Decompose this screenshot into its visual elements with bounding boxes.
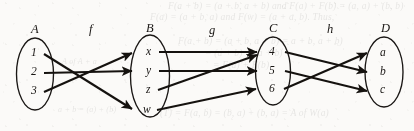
set-label-D: D	[380, 21, 390, 35]
bleed-line: a + b = (a) + (b)	[58, 105, 116, 114]
function-composition-figure: F(a + b) = (a + b, a + b) and F(a) + F(b…	[0, 0, 414, 131]
arrow-h-6-to-a	[284, 53, 367, 89]
mapping-g-arrows	[157, 52, 257, 110]
bleed-line: F(a) = (a + b, a) and F(w) = (a + a, b).…	[149, 12, 334, 23]
set-members-A: 1 2 3	[30, 46, 37, 96]
set-label-A: A	[30, 22, 39, 36]
member-B-x: x	[145, 45, 152, 57]
member-D-c: c	[380, 83, 385, 95]
mapping-h-arrows	[284, 52, 367, 91]
set-label-C: C	[269, 21, 278, 35]
bleed-line: F(a + b) = (a + b, a + b) and F(a) + F(b…	[167, 1, 404, 12]
set-members-C: 4 5 6	[269, 45, 275, 94]
function-label-h: h	[327, 22, 333, 36]
member-A-2: 2	[31, 65, 37, 77]
bleed-line: F(a + b) = (a + b, a + b) = a + b, a + b…	[177, 36, 343, 47]
function-label-g: g	[209, 23, 215, 37]
member-C-5: 5	[269, 64, 275, 76]
member-B-w: w	[143, 103, 151, 115]
diagram-canvas: F(a + b) = (a + b, a + b) and F(a) + F(b…	[0, 0, 414, 131]
member-B-z: z	[145, 83, 151, 95]
arrow-h-4-to-b	[285, 52, 367, 72]
member-B-y: y	[145, 64, 152, 77]
member-A-3: 3	[30, 84, 37, 96]
member-C-6: 6	[269, 82, 275, 94]
member-A-1: 1	[31, 46, 37, 58]
bleed-line: A of A + a	[61, 57, 97, 66]
set-label-B: B	[146, 21, 154, 35]
function-label-f: f	[89, 22, 94, 36]
arrow-h-5-to-c	[285, 71, 367, 91]
member-D-a: a	[380, 46, 386, 58]
member-C-4: 4	[269, 45, 275, 57]
member-D-b: b	[380, 65, 386, 77]
set-members-B: x y z w	[143, 45, 152, 115]
function-name-labels: f g h	[89, 22, 333, 37]
arrow-g-w-to-6	[157, 89, 256, 110]
set-members-D: a b c	[380, 46, 386, 95]
bleed-line: (T) = F(a, b) = (b, a) + (b, a) = A of W…	[160, 108, 329, 119]
arrow-g-z-to-4	[158, 55, 257, 90]
